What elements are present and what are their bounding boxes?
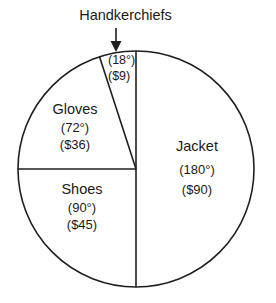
handkerchiefs-amount: ($9) xyxy=(108,69,168,83)
jacket-amount: ($90) xyxy=(137,182,257,197)
jacket-degrees: (180°) xyxy=(137,162,257,177)
shoes-degrees: (90°) xyxy=(22,200,142,215)
pie-chart: Handkerchiefs (18°) ($9) Gloves (72°) ($… xyxy=(0,0,276,303)
gloves-amount: ($36) xyxy=(15,137,135,152)
handkerchiefs-degrees: (18°) xyxy=(108,53,168,67)
handkerchiefs-callout-label: Handkerchiefs xyxy=(0,8,251,23)
shoes-name: Shoes xyxy=(22,181,142,197)
down-arrow-icon xyxy=(111,41,122,52)
jacket-name: Jacket xyxy=(137,138,257,154)
gloves-name: Gloves xyxy=(15,101,135,117)
shoes-amount: ($45) xyxy=(22,217,142,232)
gloves-degrees: (72°) xyxy=(15,120,135,135)
